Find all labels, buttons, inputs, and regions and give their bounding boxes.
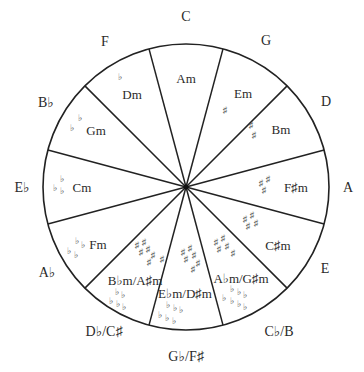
sharp-icon: ♯ <box>139 247 144 257</box>
major-key-label: A♭ <box>39 265 56 280</box>
flat-icon: ♭ <box>60 174 64 184</box>
flat-icon: ♭ <box>53 183 57 193</box>
sharp-icon: ♯ <box>262 185 267 195</box>
circle-of-fifths-diagram: ♯♯♯♯♯♯♯♯♯♯♯♯♯♯♯♯♯♯♯♯♯♯♯♯♯♯♯♯♭♭♭♭♭♭♭♭♭♭♭♭… <box>0 0 364 372</box>
flat-icon: ♭ <box>158 310 162 320</box>
minor-key-label: Dm <box>122 87 142 102</box>
major-key-label: C <box>181 9 190 24</box>
major-key-label: G <box>261 33 271 48</box>
sharp-icon: ♯ <box>254 218 259 228</box>
sharp-icon: ♯ <box>217 244 222 254</box>
minor-key-label: Am <box>176 71 196 86</box>
flat-icon: ♭ <box>179 305 183 315</box>
flat-icon: ♭ <box>74 250 78 260</box>
diagram-canvas: ♯♯♯♯♯♯♯♯♯♯♯♯♯♯♯♯♯♯♯♯♯♯♯♯♯♯♯♯♭♭♭♭♭♭♭♭♭♭♭♭… <box>0 0 364 372</box>
flat-icon: ♭ <box>70 123 74 133</box>
minor-key-label: Cm <box>73 180 92 195</box>
segment-divider <box>48 187 186 224</box>
flat-icon: ♭ <box>116 299 120 309</box>
flat-icon: ♭ <box>165 313 169 323</box>
sharp-icon: ♯ <box>249 120 254 130</box>
minor-key-label: F♯m <box>284 180 308 195</box>
flat-icon: ♭ <box>67 246 71 256</box>
sharp-icon: ♯ <box>191 264 196 274</box>
flat-icon: ♭ <box>60 186 64 196</box>
flat-icon: ♭ <box>115 287 119 297</box>
minor-key-label: B♭m/A♯m <box>108 273 163 288</box>
sharp-icon: ♯ <box>223 105 228 115</box>
major-key-label: B♭ <box>38 95 54 110</box>
flat-icon: ♭ <box>230 296 234 306</box>
segment-divider <box>48 150 186 187</box>
minor-key-label: E♭m/D♯m <box>158 286 212 301</box>
sharp-icon: ♯ <box>184 254 189 264</box>
major-key-label: A <box>343 180 354 195</box>
major-key-label: C♭/B <box>264 324 293 339</box>
flat-icon: ♭ <box>173 303 177 313</box>
flat-icon: ♭ <box>81 240 85 250</box>
flat-icon: ♭ <box>75 236 79 246</box>
flat-icon: ♭ <box>118 72 122 82</box>
flat-icon: ♭ <box>122 302 126 312</box>
flat-icon: ♭ <box>109 296 113 306</box>
segment-divider <box>186 49 223 187</box>
minor-key-label: Em <box>234 86 252 101</box>
minor-key-label: C♯m <box>265 238 290 253</box>
sharp-icon: ♯ <box>225 241 230 251</box>
sharp-icon: ♯ <box>266 174 271 184</box>
flat-icon: ♭ <box>237 299 241 309</box>
sharp-icon: ♯ <box>231 248 236 258</box>
flat-icon: ♭ <box>243 290 247 300</box>
flat-icon: ♭ <box>237 287 241 297</box>
flat-icon: ♭ <box>78 113 82 123</box>
minor-key-label: Fm <box>89 237 106 252</box>
flat-icon: ♭ <box>166 300 170 310</box>
major-key-label: E <box>321 261 330 276</box>
major-key-label: D <box>321 94 331 109</box>
major-key-label: E♭ <box>14 180 29 195</box>
segment-divider <box>149 49 186 187</box>
minor-key-label: Gm <box>86 123 106 138</box>
minor-key-label: Bm <box>272 122 291 137</box>
center-hub <box>184 185 189 190</box>
sharp-icon: ♯ <box>160 254 165 264</box>
flat-icon: ♭ <box>172 316 176 326</box>
sharp-icon: ♯ <box>151 250 156 260</box>
sharp-icon: ♯ <box>147 257 152 267</box>
sharp-icon: ♯ <box>246 221 251 231</box>
sharp-icon: ♯ <box>196 258 201 268</box>
major-key-label: F <box>101 34 109 49</box>
major-key-label: G♭/F♯ <box>168 349 204 364</box>
major-key-label: D♭/C♯ <box>86 324 124 339</box>
flat-icon: ♭ <box>222 293 226 303</box>
flat-icon: ♭ <box>243 302 247 312</box>
flat-icon: ♭ <box>121 290 125 300</box>
sharp-icon: ♯ <box>252 130 257 140</box>
minor-key-label: A♭m/G♯m <box>213 271 268 286</box>
